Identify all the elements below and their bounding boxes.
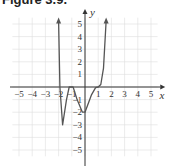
svg-text:1: 1 [78, 69, 83, 79]
curve [56, 17, 109, 124]
svg-text:−3: −3 [41, 89, 51, 99]
svg-text:−5: −5 [72, 145, 82, 155]
svg-text:y: y [89, 6, 95, 18]
svg-text:−2: −2 [54, 89, 64, 99]
svg-text:3: 3 [78, 44, 83, 54]
svg-text:3: 3 [122, 89, 127, 99]
svg-text:2: 2 [109, 89, 114, 99]
svg-text:−4: −4 [72, 132, 82, 142]
svg-text:5: 5 [78, 19, 83, 29]
svg-text:1: 1 [96, 89, 101, 99]
svg-text:−5: −5 [14, 89, 24, 99]
tick-labels: xy−5−4−3−2−11234554321−1−2−3−4−5 [14, 6, 164, 155]
svg-text:5: 5 [149, 89, 154, 99]
svg-text:x: x [159, 89, 165, 101]
svg-text:−4: −4 [27, 89, 37, 99]
svg-text:4: 4 [136, 89, 141, 99]
svg-text:2: 2 [78, 57, 83, 67]
svg-text:4: 4 [78, 32, 83, 42]
axes [10, 9, 165, 166]
svg-text:−3: −3 [72, 120, 82, 130]
function-graph: xy−5−4−3−2−11234554321−1−2−3−4−5 [0, 0, 170, 166]
